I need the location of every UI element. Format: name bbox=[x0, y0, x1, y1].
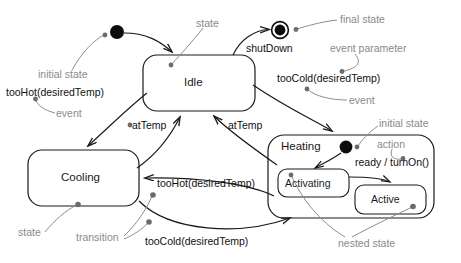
callout-event-parameter bbox=[344, 54, 358, 71]
callout-event-right bbox=[308, 90, 347, 100]
callout-dot-state-cooling bbox=[75, 202, 81, 208]
callout-initial-state-top bbox=[72, 35, 104, 70]
callout-dot-nested-state-active bbox=[410, 204, 416, 210]
transition-label-shutdown: shutDown bbox=[246, 43, 293, 54]
annotation-state-top: state bbox=[196, 18, 219, 29]
annotation-event-parameter: event parameter bbox=[330, 43, 406, 54]
callout-dot-state-top bbox=[169, 63, 174, 68]
state-machine-diagram: Idle Cooling Heating Activating Active s… bbox=[0, 0, 461, 263]
transition-initial-to-idle bbox=[124, 33, 172, 52]
annotation-initial-state-top: initial state bbox=[38, 69, 88, 80]
transition-label-too-hot-left: tooHot(desiredTemp) bbox=[6, 87, 104, 98]
callout-dot-transition-upper bbox=[150, 192, 156, 198]
initial-state-node-top bbox=[110, 25, 124, 39]
transition-label-too-cold-right: tooCold(desiredTemp) bbox=[277, 73, 380, 84]
callout-final-state bbox=[297, 20, 337, 29]
callout-state-cooling bbox=[45, 205, 77, 232]
transition-label-at-temp-left: atTemp bbox=[132, 120, 166, 131]
annotation-event-left: event bbox=[56, 108, 82, 119]
transition-label-ready-turn-on: ready / turnOn() bbox=[355, 157, 429, 168]
state-label-activating: Activating bbox=[285, 178, 331, 189]
annotation-state-cooling: state bbox=[18, 227, 41, 238]
state-label-heating: Heating bbox=[281, 141, 321, 153]
transition-label-too-cold-bottom: tooCold(desiredTemp) bbox=[145, 236, 248, 247]
diagram-canvas bbox=[0, 0, 461, 263]
transition-label-at-temp-right: atTemp bbox=[228, 120, 262, 131]
state-label-active: Active bbox=[371, 194, 400, 205]
initial-state-node-heating bbox=[340, 141, 353, 154]
annotation-transition: transition bbox=[76, 232, 119, 243]
callout-dot-transition-lower bbox=[146, 219, 152, 225]
callout-dot-final-state bbox=[294, 27, 299, 32]
callout-dot-initial-state-top bbox=[103, 33, 108, 38]
callout-event-left bbox=[36, 100, 55, 113]
annotation-action: action bbox=[377, 139, 405, 150]
transition-idle-to-heating bbox=[253, 85, 332, 131]
annotation-final-state: final state bbox=[340, 14, 385, 25]
state-label-idle: Idle bbox=[184, 77, 203, 89]
callout-dot-event-right bbox=[305, 87, 310, 92]
state-label-cooling: Cooling bbox=[61, 172, 100, 184]
annotation-initial-state-heating: initial state bbox=[379, 118, 429, 129]
annotation-event-right: event bbox=[349, 95, 375, 106]
transition-label-too-hot-mid: tooHot(desiredTemp) bbox=[157, 178, 255, 189]
final-state-core bbox=[275, 25, 286, 36]
transition-cooling-to-heating bbox=[139, 201, 290, 229]
callout-dot-initial-state-heating bbox=[355, 145, 360, 150]
annotation-nested-state: nested state bbox=[338, 238, 395, 249]
